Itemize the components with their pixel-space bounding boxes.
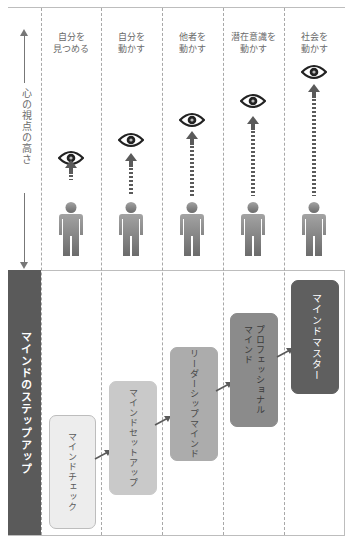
person-icon [241, 202, 265, 258]
section-divider [8, 270, 345, 271]
sidebar-label: マインドのステップアップ [8, 270, 41, 535]
column-label: 潜在意識を 動かす [223, 31, 283, 55]
arrow-dashed-stem [190, 146, 194, 196]
arrow-dashed-stem [69, 175, 73, 180]
arrow-up-icon [247, 116, 259, 124]
column-label: 他者を 動かす [162, 31, 222, 55]
column-label: 自分を 見つめる [41, 31, 101, 55]
step-mind-check: マインドチェック [49, 415, 96, 529]
eye-icon [301, 64, 327, 80]
arrow-stem [312, 92, 316, 98]
step-mind-setup: マインドセットアップ [109, 381, 157, 495]
top-border [8, 7, 345, 8]
arrow-up-icon [125, 153, 137, 161]
axis-line-upper [24, 35, 25, 83]
arrow-up-icon [65, 160, 77, 168]
arrow-dashed-stem [312, 99, 316, 196]
person-icon [302, 202, 326, 258]
column-divider [223, 8, 224, 535]
axis-line-lower [24, 193, 25, 263]
step-label: リーダーシップマインド [188, 349, 200, 459]
arrow-dashed-stem [129, 168, 133, 196]
column-divider [284, 8, 285, 535]
step-professional-mind: プロフェッショナル マインド [230, 313, 278, 427]
arrow-stem [129, 161, 133, 167]
axis-arrow-down-icon [20, 262, 28, 269]
arrow-stem [69, 168, 73, 174]
step-label: マインドチェック [67, 432, 79, 512]
step-label: マインドマスター [309, 293, 321, 381]
step-leadership-mind: リーダーシップマインド [170, 347, 218, 461]
eye-icon [179, 112, 205, 128]
step-label: マインドセットアップ [127, 388, 139, 488]
arrow-stem [251, 124, 255, 130]
arrow-up-icon [308, 84, 320, 92]
arrow-up-icon [186, 131, 198, 139]
step-label: プロフェッショナル マインド [242, 325, 266, 415]
step-mind-master: マインドマスター [291, 280, 339, 394]
bottom-border [8, 535, 345, 536]
eye-icon [118, 132, 144, 148]
person-icon [59, 202, 83, 258]
eye-icon [240, 93, 266, 109]
axis-label: 心の視点の高さ [17, 88, 31, 165]
person-icon [119, 202, 143, 258]
column-divider [162, 8, 163, 535]
arrow-dashed-stem [251, 131, 255, 196]
column-label: 自分を 動かす [101, 31, 161, 55]
person-icon [180, 202, 204, 258]
sidebar-band: マインドのステップアップ [8, 270, 41, 535]
right-border [344, 270, 345, 535]
arrow-stem [190, 139, 194, 145]
column-label: 社会を 動かす [284, 31, 344, 55]
column-divider [41, 8, 42, 535]
